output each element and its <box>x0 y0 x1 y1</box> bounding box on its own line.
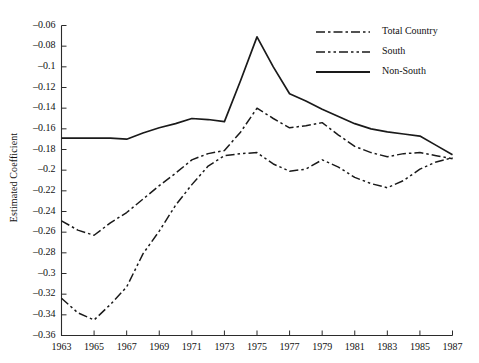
y-tick-label: –0.12 <box>10 81 56 92</box>
y-tick-label: –0.3 <box>10 267 56 278</box>
series-line <box>62 153 453 320</box>
x-axis-ticks <box>62 331 453 336</box>
y-tick-label: –0.14 <box>10 101 56 112</box>
y-tick-label: –0.08 <box>10 39 56 50</box>
y-axis-ticks <box>62 26 67 336</box>
y-tick-label: –0.36 <box>10 329 56 340</box>
y-tick-label: –0.16 <box>10 122 56 133</box>
y-tick-label: –0.2 <box>10 163 56 174</box>
y-tick-label: –0.28 <box>10 246 56 257</box>
y-tick-label: –0.06 <box>10 19 56 30</box>
y-tick-label: –0.24 <box>10 205 56 216</box>
legend-item-label: Total Country <box>382 25 438 36</box>
chart-plot-area <box>0 0 479 363</box>
y-tick-label: –0.18 <box>10 143 56 154</box>
y-tick-label: –0.32 <box>10 287 56 298</box>
y-tick-label: –0.1 <box>10 60 56 71</box>
y-tick-label: –0.22 <box>10 184 56 195</box>
y-tick-label: –0.34 <box>10 308 56 319</box>
legend-sample-lines <box>316 32 370 72</box>
x-tick-label: 1987 <box>433 341 473 352</box>
series-line <box>62 108 453 235</box>
legend-item-label: Non-South <box>382 65 426 76</box>
chart-series-lines <box>62 37 453 320</box>
chart-figure: Estimated Coefficient –0.06–0.08–0.1–0.1… <box>0 0 479 363</box>
legend-item-label: South <box>382 45 405 56</box>
y-tick-label: –0.26 <box>10 225 56 236</box>
